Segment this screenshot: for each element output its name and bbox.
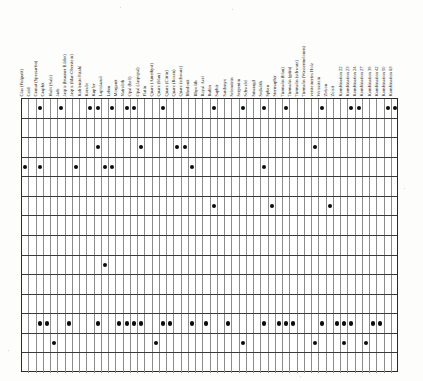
matrix-cell-empty[interactable] (131, 236, 138, 255)
matrix-cell-empty[interactable] (29, 314, 36, 333)
matrix-cell-empty[interactable] (189, 236, 196, 255)
matrix-cell-empty[interactable] (145, 256, 152, 275)
matrix-cell-empty[interactable] (261, 216, 268, 235)
matrix-cell-empty[interactable] (80, 177, 87, 196)
matrix-cell-empty[interactable] (290, 236, 297, 255)
matrix-cell-empty[interactable] (312, 295, 319, 314)
matrix-cell-empty[interactable] (312, 216, 319, 235)
matrix-cell-empty[interactable] (37, 119, 44, 138)
matrix-cell-empty[interactable] (153, 197, 160, 216)
matrix-cell-empty[interactable] (73, 295, 80, 314)
matrix-cell-empty[interactable] (385, 236, 392, 255)
matrix-cell-empty[interactable] (312, 275, 319, 294)
matrix-cell-empty[interactable] (385, 158, 392, 177)
matrix-cell-empty[interactable] (95, 197, 102, 216)
matrix-cell-empty[interactable] (348, 334, 355, 353)
matrix-cell-empty[interactable] (319, 177, 326, 196)
matrix-cell-empty[interactable] (102, 353, 109, 373)
matrix-cell-empty[interactable] (153, 353, 160, 373)
matrix-cell-empty[interactable] (247, 314, 254, 333)
matrix-cell-empty[interactable] (348, 236, 355, 255)
matrix-cell-empty[interactable] (174, 216, 181, 235)
matrix-cell-empty[interactable] (153, 216, 160, 235)
matrix-cell-empty[interactable] (392, 236, 399, 255)
matrix-cell-marked[interactable] (319, 314, 326, 333)
matrix-cell-empty[interactable] (80, 119, 87, 138)
matrix-cell-empty[interactable] (153, 119, 160, 138)
table-row[interactable] (22, 256, 397, 276)
matrix-cell-marked[interactable] (51, 334, 58, 353)
matrix-cell-empty[interactable] (305, 275, 312, 294)
matrix-cell-empty[interactable] (385, 275, 392, 294)
matrix-cell-empty[interactable] (116, 99, 123, 118)
table-row[interactable] (22, 295, 397, 315)
matrix-cell-marked[interactable] (377, 314, 384, 333)
matrix-cell-empty[interactable] (80, 158, 87, 177)
matrix-cell-empty[interactable] (160, 334, 167, 353)
matrix-cell-empty[interactable] (124, 216, 131, 235)
matrix-cell-empty[interactable] (211, 334, 218, 353)
matrix-cell-empty[interactable] (334, 158, 341, 177)
matrix-cell-empty[interactable] (196, 275, 203, 294)
matrix-cell-empty[interactable] (334, 334, 341, 353)
matrix-cell-empty[interactable] (334, 295, 341, 314)
matrix-cell-marked[interactable] (341, 314, 348, 333)
matrix-cell-empty[interactable] (305, 256, 312, 275)
matrix-cell-marked[interactable] (95, 314, 102, 333)
matrix-cell-empty[interactable] (363, 197, 370, 216)
matrix-cell-empty[interactable] (269, 314, 276, 333)
matrix-cell-empty[interactable] (29, 236, 36, 255)
matrix-cell-empty[interactable] (29, 353, 36, 373)
matrix-cell-empty[interactable] (290, 295, 297, 314)
matrix-cell-empty[interactable] (283, 295, 290, 314)
matrix-cell-marked[interactable] (102, 158, 109, 177)
matrix-cell-empty[interactable] (348, 353, 355, 373)
matrix-cell-empty[interactable] (37, 256, 44, 275)
matrix-cell-empty[interactable] (385, 177, 392, 196)
matrix-cell-empty[interactable] (196, 353, 203, 373)
matrix-cell-empty[interactable] (218, 138, 225, 157)
matrix-cell-empty[interactable] (102, 334, 109, 353)
matrix-cell-marked[interactable] (211, 197, 218, 216)
matrix-cell-empty[interactable] (276, 256, 283, 275)
matrix-cell-empty[interactable] (254, 236, 261, 255)
matrix-cell-empty[interactable] (109, 275, 116, 294)
matrix-cell-empty[interactable] (44, 216, 51, 235)
matrix-cell-empty[interactable] (22, 314, 29, 333)
matrix-cell-empty[interactable] (29, 158, 36, 177)
matrix-cell-empty[interactable] (276, 99, 283, 118)
matrix-cell-empty[interactable] (196, 295, 203, 314)
matrix-cell-empty[interactable] (131, 216, 138, 235)
matrix-cell-empty[interactable] (370, 295, 377, 314)
matrix-cell-empty[interactable] (131, 353, 138, 373)
matrix-cell-empty[interactable] (44, 119, 51, 138)
matrix-cell-empty[interactable] (225, 197, 232, 216)
matrix-cell-empty[interactable] (95, 353, 102, 373)
matrix-cell-empty[interactable] (203, 197, 210, 216)
matrix-cell-empty[interactable] (22, 177, 29, 196)
matrix-cell-empty[interactable] (51, 275, 58, 294)
matrix-cell-empty[interactable] (102, 119, 109, 138)
matrix-cell-empty[interactable] (363, 177, 370, 196)
matrix-cell-empty[interactable] (363, 99, 370, 118)
matrix-cell-empty[interactable] (87, 334, 94, 353)
matrix-cell-marked[interactable] (138, 138, 145, 157)
matrix-cell-empty[interactable] (290, 197, 297, 216)
matrix-cell-marked[interactable] (276, 314, 283, 333)
matrix-cell-marked[interactable] (363, 334, 370, 353)
matrix-cell-empty[interactable] (196, 334, 203, 353)
matrix-cell-marked[interactable] (211, 99, 218, 118)
matrix-cell-empty[interactable] (44, 138, 51, 157)
matrix-cell-empty[interactable] (283, 197, 290, 216)
matrix-cell-empty[interactable] (370, 197, 377, 216)
matrix-cell-empty[interactable] (232, 295, 239, 314)
matrix-cell-empty[interactable] (66, 177, 73, 196)
matrix-cell-empty[interactable] (247, 158, 254, 177)
matrix-cell-empty[interactable] (51, 256, 58, 275)
matrix-cell-empty[interactable] (37, 236, 44, 255)
matrix-cell-empty[interactable] (95, 295, 102, 314)
matrix-cell-empty[interactable] (160, 353, 167, 373)
matrix-cell-empty[interactable] (58, 197, 65, 216)
matrix-cell-empty[interactable] (80, 99, 87, 118)
matrix-cell-empty[interactable] (283, 138, 290, 157)
